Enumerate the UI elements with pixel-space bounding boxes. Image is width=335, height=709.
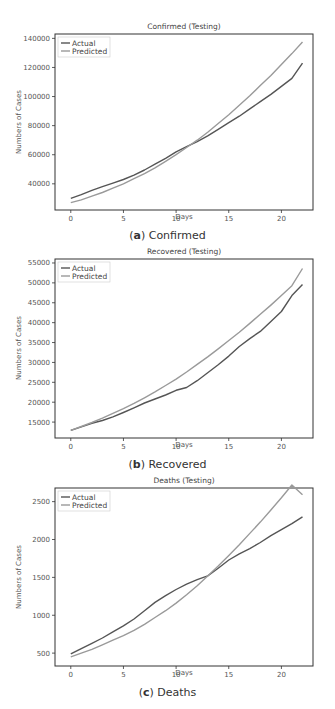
x-axis-label: Days [175, 669, 193, 677]
plot-frame [55, 488, 313, 666]
x-tick-label: 5 [121, 671, 125, 679]
y-tick-label: 1000 [32, 612, 50, 620]
y-tick-label: 2500 [32, 498, 50, 506]
y-axis-label: Numbers of Cases [15, 545, 23, 609]
chart-title: Deaths (Testing) [153, 476, 214, 485]
y-tick-label: 500 [37, 650, 50, 658]
y-tick-label: 2000 [32, 536, 50, 544]
x-tick-label: 0 [69, 671, 73, 679]
x-tick-label: 15 [224, 671, 233, 679]
y-tick-label: 1500 [32, 574, 50, 582]
legend-label: Predicted [72, 501, 107, 510]
deaths-line-chart: Deaths (Testing)500100015002000250005101… [0, 0, 335, 709]
x-tick-label: 20 [277, 671, 286, 679]
caption-letter: c [143, 686, 150, 699]
caption-deaths: (c) Deaths [0, 686, 335, 699]
series-line-actual [71, 517, 303, 654]
caption-text: Deaths [157, 686, 196, 699]
